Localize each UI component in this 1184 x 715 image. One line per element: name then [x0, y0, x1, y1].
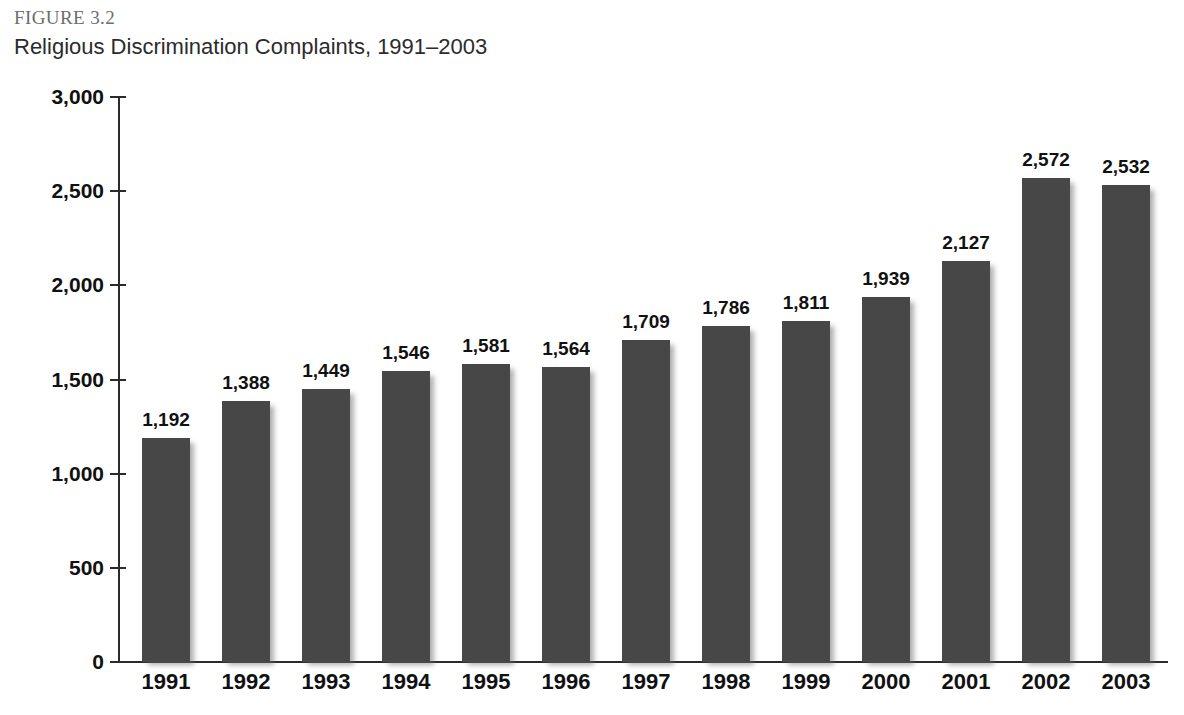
x-axis-tick-label: 1992: [201, 670, 291, 694]
plot-area: 1,1921,3881,4491,5461,5811,5641,7091,786…: [118, 97, 1168, 662]
bar[interactable]: [462, 364, 510, 662]
bar[interactable]: [1022, 178, 1070, 662]
bar-value-label: 1,192: [126, 410, 206, 429]
bar[interactable]: [382, 371, 430, 662]
bar-group: 1,564: [542, 97, 590, 662]
x-axis-tick-label: 1999: [761, 670, 851, 694]
bar[interactable]: [142, 438, 190, 662]
bar[interactable]: [942, 261, 990, 662]
y-axis-tick-label: 2,500: [8, 180, 104, 201]
x-axis-tick-label: 1993: [281, 670, 371, 694]
y-axis-tick-label: 2,000: [8, 274, 104, 295]
x-axis-tick-label: 2000: [841, 670, 931, 694]
bar[interactable]: [862, 297, 910, 662]
bar-value-label: 1,546: [366, 343, 446, 362]
bar[interactable]: [702, 326, 750, 662]
x-axis-tick-label: 2003: [1081, 670, 1171, 694]
bar-group: 1,192: [142, 97, 190, 662]
figure-number: FIGURE 3.2: [14, 6, 1114, 30]
bar-group: 1,388: [222, 97, 270, 662]
figure-title: Religious Discrimination Complaints, 199…: [14, 32, 1114, 62]
x-axis-tick-label: 2002: [1001, 670, 1091, 694]
bar-group: 1,546: [382, 97, 430, 662]
y-axis-tick-label: 500: [8, 557, 104, 578]
bar[interactable]: [222, 401, 270, 662]
y-axis-tick-label: 3,000: [8, 86, 104, 107]
bar-value-label: 1,388: [206, 373, 286, 392]
y-axis-tick-label: 1,500: [8, 369, 104, 390]
bar-value-label: 1,581: [446, 336, 526, 355]
bar-group: 2,127: [942, 97, 990, 662]
x-axis-tick-label: 1997: [601, 670, 691, 694]
bar-value-label: 2,127: [926, 233, 1006, 252]
bar[interactable]: [622, 340, 670, 662]
figure-header: FIGURE 3.2 Religious Discrimination Comp…: [14, 6, 1114, 62]
bar-value-label: 1,786: [686, 298, 766, 317]
x-axis-tick-label: 1998: [681, 670, 771, 694]
bar-group: 1,939: [862, 97, 910, 662]
x-axis-tick-label: 1996: [521, 670, 611, 694]
bar-value-label: 1,449: [286, 361, 366, 380]
bar-group: 2,532: [1102, 97, 1150, 662]
x-axis-tick-label: 2001: [921, 670, 1011, 694]
bar-value-label: 1,564: [526, 339, 606, 358]
bar-value-label: 1,811: [766, 293, 846, 312]
bar-group: 1,449: [302, 97, 350, 662]
x-axis-tick-label: 1994: [361, 670, 451, 694]
bar[interactable]: [542, 367, 590, 662]
bar[interactable]: [782, 321, 830, 662]
bar-value-label: 1,709: [606, 312, 686, 331]
bar-group: 1,709: [622, 97, 670, 662]
bar[interactable]: [1102, 185, 1150, 662]
y-axis-tick-label: 1,000: [8, 463, 104, 484]
y-axis-tick-label: 0: [8, 651, 104, 672]
bar-value-label: 2,532: [1086, 157, 1166, 176]
x-axis-tick-label: 1991: [121, 670, 211, 694]
bar-group: 1,811: [782, 97, 830, 662]
bar-value-label: 1,939: [846, 269, 926, 288]
bar-group: 2,572: [1022, 97, 1070, 662]
bar-group: 1,786: [702, 97, 750, 662]
bar-chart: 05001,0001,5002,0002,5003,000 1,1921,388…: [0, 78, 1184, 715]
bar-value-label: 2,572: [1006, 150, 1086, 169]
bar-group: 1,581: [462, 97, 510, 662]
bar[interactable]: [302, 389, 350, 662]
x-axis-tick-label: 1995: [441, 670, 531, 694]
